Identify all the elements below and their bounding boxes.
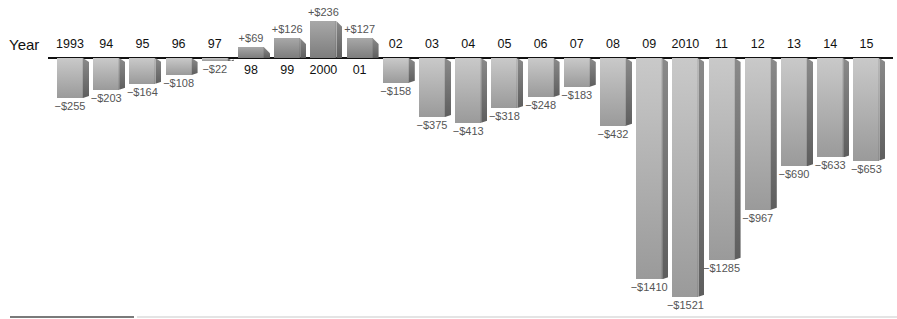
bar [853, 58, 879, 161]
footer-rule-accent [10, 316, 134, 318]
bar [817, 58, 843, 157]
year-label: 14 [810, 37, 850, 51]
bar-side-face [807, 58, 813, 166]
value-label: −$413 [443, 125, 493, 137]
footer-rule [137, 316, 897, 318]
bar [419, 58, 445, 117]
value-label: +$236 [298, 6, 348, 18]
value-label: −$318 [479, 110, 529, 122]
year-label: 94 [86, 37, 126, 51]
year-label: 2010 [665, 37, 705, 51]
bar [57, 58, 83, 98]
value-label: +$127 [335, 23, 385, 35]
deficit-bar-chart: Year 1993−$25594−$20395−$16496−$10897−$2… [0, 0, 897, 319]
year-label: 13 [774, 37, 814, 51]
year-label: 12 [738, 37, 778, 51]
value-label: +$126 [262, 23, 312, 35]
bar-side-face [626, 58, 632, 126]
bar [455, 58, 481, 123]
year-label: 02 [376, 37, 416, 51]
year-label: 07 [557, 37, 597, 51]
year-label: 2000 [303, 63, 343, 77]
value-label: −$108 [154, 77, 204, 89]
year-label: 95 [122, 37, 162, 51]
year-label: 05 [484, 37, 524, 51]
bar-side-face [409, 58, 415, 83]
value-label: −$653 [841, 163, 891, 175]
bar [129, 58, 155, 84]
value-label: −$1521 [660, 299, 710, 311]
bar-side-face [843, 58, 849, 157]
value-label: −$1410 [624, 281, 674, 293]
bar [274, 38, 300, 58]
bar-side-face [590, 58, 596, 87]
bar [166, 58, 192, 75]
bar [202, 58, 228, 61]
bar [636, 58, 662, 279]
bar [528, 58, 554, 97]
bar-side-face [300, 38, 306, 58]
year-label: 06 [521, 37, 561, 51]
value-label: −$248 [516, 99, 566, 111]
bar [383, 58, 409, 83]
bar [781, 58, 807, 166]
bar-side-face [879, 58, 885, 161]
year-label: 96 [159, 37, 199, 51]
x-axis-title: Year [9, 36, 39, 53]
year-label: 99 [267, 63, 307, 77]
bar [238, 47, 264, 58]
bar [564, 58, 590, 87]
bar-side-face [771, 58, 777, 210]
year-label: 09 [629, 37, 669, 51]
bar [491, 58, 517, 108]
year-label: 11 [702, 37, 742, 51]
year-label: 1993 [50, 37, 90, 51]
bar [709, 58, 735, 260]
value-label: −$967 [733, 212, 783, 224]
bar-side-face [264, 47, 270, 58]
bar [600, 58, 626, 126]
bar [672, 58, 698, 297]
year-label: 98 [231, 63, 271, 77]
value-label: −$183 [552, 89, 602, 101]
bar-side-face [662, 58, 668, 279]
bar [93, 58, 119, 90]
year-label: 01 [340, 63, 380, 77]
value-label: −$158 [371, 85, 421, 97]
year-label: 03 [412, 37, 452, 51]
year-label: 08 [593, 37, 633, 51]
bar [745, 58, 771, 210]
year-label: 15 [846, 37, 886, 51]
year-label: 04 [448, 37, 488, 51]
value-label: −$1285 [697, 262, 747, 274]
value-label: −$432 [588, 128, 638, 140]
bar-side-face [735, 58, 741, 260]
bar [347, 38, 373, 58]
bar [310, 21, 336, 58]
bar-side-face [445, 58, 451, 117]
